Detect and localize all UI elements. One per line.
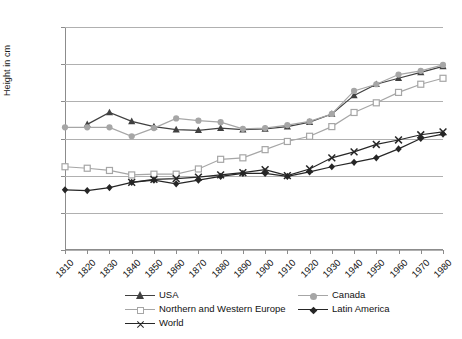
- data-point-marker: [306, 118, 312, 124]
- legend-label: Latin America: [332, 303, 390, 314]
- x-tick-label: 1830: [93, 257, 121, 285]
- data-point-marker: [329, 111, 335, 117]
- legend-swatch-x-icon: [125, 323, 155, 325]
- data-point-marker: [395, 145, 401, 152]
- legend-marker-square-icon: [137, 307, 144, 314]
- y-axis-title: Height in cm: [2, 0, 12, 96]
- data-point-marker: [62, 186, 68, 193]
- x-tick-label: 1950: [359, 257, 387, 285]
- data-point-marker: [418, 68, 424, 74]
- legend-marker-diamond-icon: [310, 307, 318, 315]
- data-point-marker: [240, 126, 246, 132]
- data-point-marker: [106, 109, 113, 116]
- data-point-marker: [329, 124, 335, 130]
- data-point-marker: [218, 119, 224, 125]
- x-tick-label: 1820: [70, 257, 98, 285]
- data-point-marker: [106, 167, 112, 173]
- x-tick-mark: [354, 250, 355, 254]
- data-point-marker: [129, 133, 135, 139]
- data-point-marker: [373, 81, 379, 87]
- data-point-marker: [395, 71, 401, 77]
- series-latin-america: [62, 130, 446, 194]
- data-point-marker: [217, 124, 224, 131]
- x-tick-label: 1860: [159, 257, 187, 285]
- series-line: [87, 66, 443, 130]
- data-point-marker: [351, 88, 357, 94]
- series-usa: [84, 63, 447, 134]
- legend-swatch-diamond-icon: [298, 309, 328, 311]
- height-by-region-line-chart: Height in cm 185180175170165160155 18101…: [0, 0, 462, 339]
- x-tick-label: 1970: [404, 257, 432, 285]
- legend-swatch-triangle-icon: [125, 295, 155, 297]
- x-tick-mark: [87, 250, 88, 254]
- data-point-marker: [284, 138, 290, 144]
- legend-label: USA: [159, 289, 179, 300]
- x-tick-label: 1840: [115, 257, 143, 285]
- series-line: [65, 78, 443, 175]
- x-tick-mark: [310, 250, 311, 254]
- data-point-marker: [284, 122, 290, 128]
- plot-area: 185180175170165160155 181018201830184018…: [65, 27, 443, 250]
- data-point-marker: [195, 166, 201, 172]
- data-series-layer: [65, 27, 443, 250]
- x-tick-mark: [65, 250, 66, 254]
- data-point-marker: [351, 159, 357, 166]
- data-point-marker: [129, 172, 135, 178]
- data-point-marker: [195, 118, 201, 124]
- x-tick-label: 1960: [382, 257, 410, 285]
- x-tick-label: 1910: [271, 257, 299, 285]
- data-point-marker: [328, 154, 335, 161]
- x-tick-label: 1850: [137, 257, 165, 285]
- series-canada: [62, 62, 446, 140]
- x-tick-mark: [132, 250, 133, 254]
- x-tick-mark: [198, 250, 199, 254]
- x-tick-label: 1810: [48, 257, 76, 285]
- data-point-marker: [440, 75, 446, 81]
- x-tick-mark: [221, 250, 222, 254]
- data-point-marker: [62, 164, 68, 170]
- x-tick-mark: [287, 250, 288, 254]
- data-point-marker: [173, 115, 179, 121]
- gridline: [65, 250, 443, 251]
- data-point-marker: [440, 62, 446, 68]
- data-point-marker: [351, 109, 357, 115]
- data-point-marker: [151, 125, 157, 131]
- legend-label: World: [159, 317, 184, 328]
- chart-legend: USACanadaNorthern and Western EuropeLati…: [0, 286, 462, 336]
- legend-label: Canada: [332, 289, 365, 300]
- x-tick-label: 1880: [204, 257, 232, 285]
- x-tick-mark: [421, 250, 422, 254]
- legend-marker-x-icon: [136, 320, 145, 329]
- data-point-marker: [262, 147, 268, 153]
- x-tick-mark: [399, 250, 400, 254]
- data-point-marker: [418, 81, 424, 87]
- data-point-marker: [106, 184, 112, 191]
- x-tick-label: 1980: [426, 257, 454, 285]
- legend-label: Northern and Western Europe: [159, 303, 286, 314]
- data-point-marker: [307, 133, 313, 139]
- data-point-marker: [329, 163, 335, 170]
- data-point-marker: [373, 100, 379, 106]
- data-point-marker: [351, 148, 358, 155]
- x-tick-mark: [243, 250, 244, 254]
- data-point-marker: [84, 187, 90, 194]
- x-tick-label: 1890: [226, 257, 254, 285]
- data-point-marker: [62, 124, 68, 130]
- x-tick-mark: [376, 250, 377, 254]
- legend-marker-triangle-icon: [136, 291, 144, 299]
- x-tick-mark: [109, 250, 110, 254]
- x-tick-label: 1940: [337, 257, 365, 285]
- x-tick-mark: [332, 250, 333, 254]
- x-tick-mark: [443, 250, 444, 254]
- x-tick-label: 1920: [293, 257, 321, 285]
- series-northern-and-western-europe: [62, 75, 446, 178]
- data-point-marker: [84, 165, 90, 171]
- data-point-marker: [218, 156, 224, 162]
- x-tick-mark: [176, 250, 177, 254]
- data-point-marker: [240, 155, 246, 161]
- x-tick-label: 1900: [248, 257, 276, 285]
- data-point-marker: [373, 154, 379, 161]
- legend-swatch-square-icon: [125, 309, 155, 311]
- x-tick-label: 1870: [182, 257, 210, 285]
- data-point-marker: [84, 124, 90, 130]
